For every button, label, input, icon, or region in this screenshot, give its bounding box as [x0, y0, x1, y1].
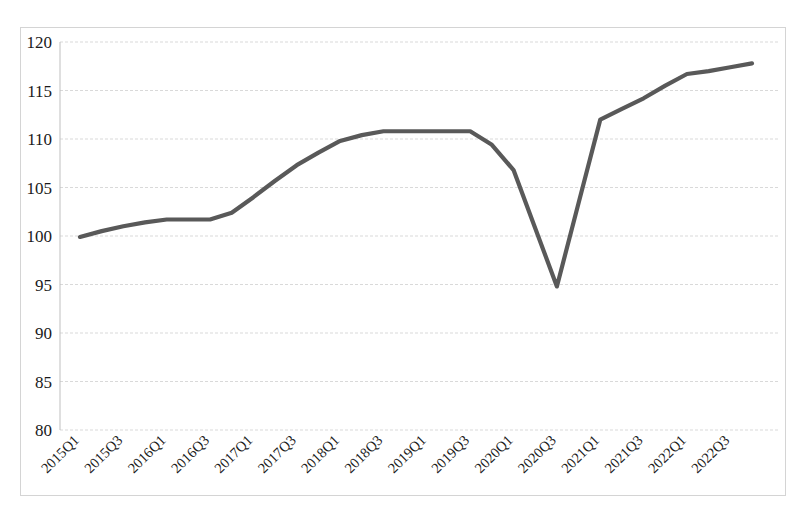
y-tick-label: 115: [27, 82, 52, 101]
y-tick-label: 120: [27, 33, 53, 52]
y-tick-label: 105: [27, 179, 53, 198]
y-tick-label: 110: [27, 130, 52, 149]
chart-container: 12011511010510095908580 2015Q12015Q32016…: [0, 0, 809, 530]
line-chart: 12011511010510095908580 2015Q12015Q32016…: [0, 0, 809, 530]
y-tick-label: 90: [35, 324, 52, 343]
y-tick-label: 95: [35, 276, 52, 295]
y-tick-label: 100: [27, 227, 53, 246]
y-tick-label: 85: [35, 373, 52, 392]
y-tick-label: 80: [35, 421, 52, 440]
